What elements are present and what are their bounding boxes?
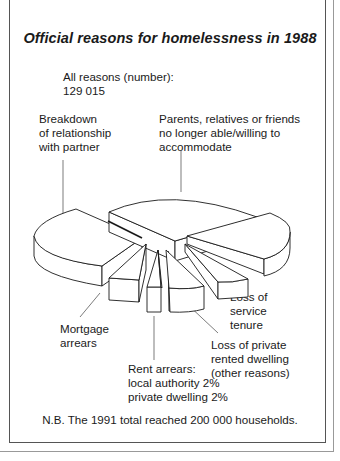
slice-rent-arrears xyxy=(147,250,162,312)
pie-chart xyxy=(0,0,340,461)
footnote: N.B. The 1991 total reached 200 000 hous… xyxy=(0,413,340,426)
